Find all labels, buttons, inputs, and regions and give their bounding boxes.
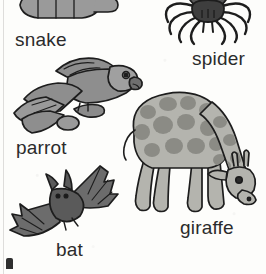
scanned-page: snake xyxy=(0,0,266,274)
bat-illustration xyxy=(8,160,126,242)
label-parrot: parrot xyxy=(16,138,67,157)
label-bat: bat xyxy=(56,240,83,259)
page-gutter-line xyxy=(3,0,4,274)
label-spider: spider xyxy=(192,49,245,68)
cropped-glyph-artifact xyxy=(6,258,13,269)
giraffe-illustration xyxy=(108,70,260,214)
snake-illustration xyxy=(12,0,120,30)
spider-illustration xyxy=(158,0,258,48)
label-giraffe: giraffe xyxy=(180,218,234,237)
label-snake: snake xyxy=(15,30,67,49)
